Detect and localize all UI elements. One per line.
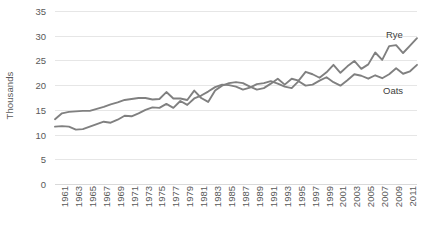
x-axis-tick: 1979 <box>184 186 195 207</box>
x-axis-tick-labels: 1961196319651967196919711973197519771979… <box>55 186 417 238</box>
x-axis-tick: 1983 <box>212 186 223 207</box>
x-axis-tick: 1963 <box>73 186 84 207</box>
x-axis-tick: 1987 <box>240 186 251 207</box>
x-axis-tick: 2011 <box>407 186 418 206</box>
x-axis-tick: 1961 <box>59 186 70 207</box>
x-axis-tick: 1977 <box>170 186 181 207</box>
series-line-oats <box>55 65 417 130</box>
y-axis-tick: 30 <box>35 30 46 41</box>
x-axis-tick: 2009 <box>393 186 404 207</box>
y-axis-tick: 15 <box>35 104 46 115</box>
x-axis-tick: 1975 <box>156 186 167 207</box>
y-axis-tick: 25 <box>35 55 46 66</box>
x-axis-tick: 2003 <box>351 186 362 207</box>
y-axis-tick: 35 <box>35 6 46 17</box>
series-line-rye <box>55 38 417 119</box>
x-axis-tick: 2007 <box>379 186 390 207</box>
x-axis-tick: 1969 <box>115 186 126 207</box>
y-axis-title: Thousands <box>0 0 20 190</box>
x-axis-tick: 1989 <box>254 186 265 207</box>
x-axis-tick: 1965 <box>87 186 98 207</box>
x-axis-tick: 1999 <box>324 186 335 207</box>
y-axis-tick-labels: 05101520253035 <box>20 0 50 190</box>
y-axis-tick: 0 <box>41 179 46 190</box>
y-axis-tick: 20 <box>35 80 46 91</box>
y-axis-tick: 5 <box>41 154 46 165</box>
y-axis-title-label: Thousands <box>5 71 16 119</box>
x-axis-tick: 2005 <box>365 186 376 207</box>
x-axis-line <box>55 184 417 185</box>
series-lines <box>55 11 417 184</box>
x-axis-tick: 1973 <box>143 186 154 207</box>
series-label-rye: Rye <box>386 29 403 40</box>
x-axis-tick: 1985 <box>226 186 237 207</box>
x-axis-tick: 1971 <box>129 186 140 207</box>
line-chart: Thousands 05101520253035 Rye Oats 196119… <box>0 0 421 238</box>
x-axis-tick: 1995 <box>296 186 307 207</box>
plot-area <box>55 11 417 184</box>
x-axis-tick: 1967 <box>101 186 112 207</box>
series-label-oats: Oats <box>383 85 403 96</box>
x-axis-tick: 1993 <box>282 186 293 207</box>
x-axis-tick: 1991 <box>268 186 279 207</box>
x-axis-tick: 2001 <box>337 186 348 207</box>
y-axis-tick: 10 <box>35 129 46 140</box>
x-axis-tick: 1997 <box>310 186 321 207</box>
x-axis-tick: 1981 <box>198 186 209 207</box>
